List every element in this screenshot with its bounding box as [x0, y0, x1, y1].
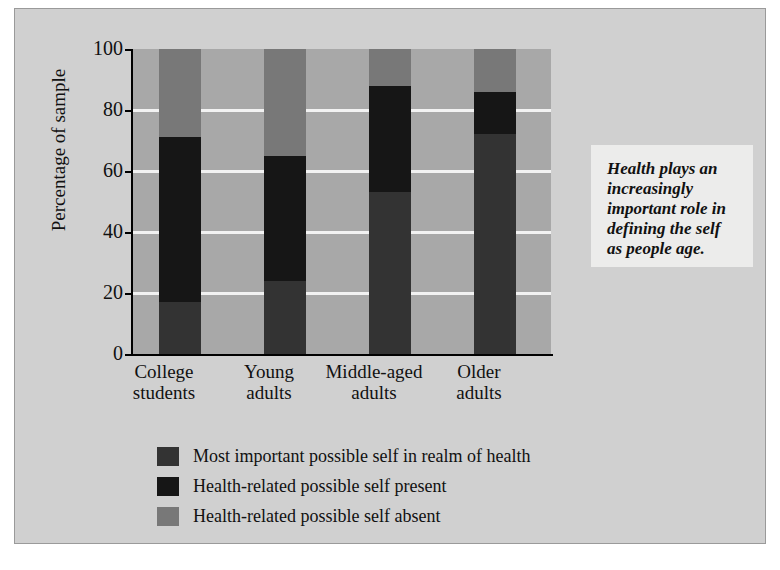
x-axis-line [131, 354, 553, 356]
bar-middle-aged-adults [369, 49, 411, 354]
figure-root: Percentage of sample 100 80 60 40 20 0 [0, 0, 780, 570]
legend-label: Health-related possible self present [193, 476, 446, 497]
bar-segment-absent [264, 49, 306, 156]
y-tick-label-20: 20 [77, 282, 123, 302]
x-label-line1: Older [414, 361, 544, 382]
legend-swatch-icon [157, 447, 179, 466]
bar-segment-most-important [474, 134, 516, 354]
bar-segment-present [159, 137, 201, 302]
legend-item-most-important: Most important possible self in realm of… [157, 441, 627, 471]
bar-young-adults [264, 49, 306, 354]
legend-label: Health-related possible self absent [193, 506, 440, 527]
bar-segment-most-important [264, 281, 306, 354]
bar-segment-present [474, 92, 516, 135]
legend-item-absent: Health-related possible self absent [157, 501, 627, 531]
callout-box: Health plays an increasingly important r… [591, 145, 753, 267]
bar-segment-present [264, 156, 306, 281]
y-axis-line [131, 49, 133, 354]
legend-swatch-icon [157, 477, 179, 496]
bar-segment-absent [159, 49, 201, 137]
bar-segment-most-important [369, 192, 411, 354]
legend: Most important possible self in realm of… [157, 441, 627, 531]
y-tick-label-80: 80 [77, 99, 123, 119]
bar-college-students [159, 49, 201, 354]
y-tick-label-0: 0 [77, 343, 123, 363]
chart-panel: Percentage of sample 100 80 60 40 20 0 [14, 8, 766, 544]
y-tick-label-60: 60 [77, 160, 123, 180]
legend-item-present: Health-related possible self present [157, 471, 627, 501]
x-label-older-adults: Older adults [414, 361, 544, 404]
y-axis-title: Percentage of sample [48, 20, 70, 280]
callout-text: Health plays an increasingly important r… [607, 159, 739, 259]
plot-area [131, 49, 551, 354]
legend-label: Most important possible self in realm of… [193, 446, 530, 467]
bar-older-adults [474, 49, 516, 354]
x-label-line2: adults [414, 382, 544, 403]
bar-segment-present [369, 86, 411, 193]
legend-swatch-icon [157, 507, 179, 526]
bar-segment-most-important [159, 302, 201, 354]
y-tick-label-40: 40 [77, 221, 123, 241]
bar-segment-absent [369, 49, 411, 86]
bar-segment-absent [474, 49, 516, 92]
y-tick-label-100: 100 [77, 38, 123, 58]
